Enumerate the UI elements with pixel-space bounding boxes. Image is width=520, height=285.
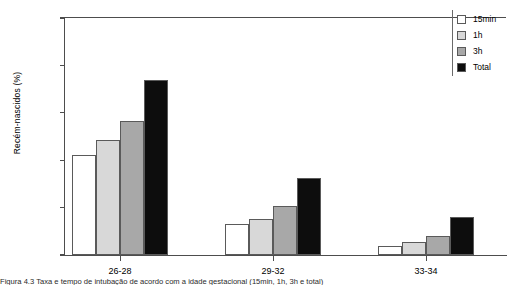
legend-label-3h: 3h — [473, 46, 482, 57]
bar-33-34-1h — [402, 242, 426, 255]
y-axis-tick — [60, 17, 65, 18]
x-axis-tick — [426, 255, 427, 261]
y-axis-title: Recém-nascidos (%) — [12, 38, 22, 188]
bar-29-32-3h — [273, 206, 297, 255]
legend-swatch-15min — [457, 15, 466, 24]
bar-29-32-1h — [249, 219, 273, 255]
bar-26-28-Total — [144, 80, 168, 255]
x-axis-tick — [120, 255, 121, 261]
x-axis-tick-label-29-32: 29-32 — [233, 266, 313, 276]
legend-label-1h: 1h — [473, 30, 482, 41]
chart-legend: 15min1h3hTotal — [452, 10, 520, 76]
bar-29-32-Total — [297, 178, 321, 255]
y-axis-tick — [60, 160, 65, 161]
bar-26-28-1h — [96, 140, 120, 255]
legend-swatch-3h — [457, 47, 466, 56]
y-axis-tick — [60, 207, 65, 208]
bar-33-34-Total — [450, 217, 474, 255]
bar-33-34-3h — [426, 236, 450, 255]
bar-26-28-15min — [72, 155, 96, 255]
plot-area: 02040608010026-2829-3233-34 — [64, 18, 507, 256]
legend-swatch-1h — [457, 31, 466, 40]
figure-grouped-bar-chart: Recém-nascidos (%) 02040608010026-2829-3… — [0, 0, 520, 285]
y-axis-tick — [60, 254, 65, 255]
y-axis-tick — [60, 112, 65, 113]
x-axis-tick — [273, 255, 274, 261]
y-axis-tick — [60, 65, 65, 66]
bar-33-34-15min — [378, 246, 402, 255]
bar-26-28-3h — [120, 121, 144, 255]
legend-label-15min: 15min — [473, 14, 496, 25]
bar-29-32-15min — [225, 224, 249, 255]
legend-label-Total: Total — [473, 62, 491, 73]
x-axis-tick-label-26-28: 26-28 — [80, 266, 160, 276]
figure-caption: Figura 4.3 Taxa e tempo de intubação de … — [0, 277, 520, 285]
legend-swatch-Total — [457, 63, 466, 72]
x-axis-tick-label-33-34: 33-34 — [386, 266, 466, 276]
